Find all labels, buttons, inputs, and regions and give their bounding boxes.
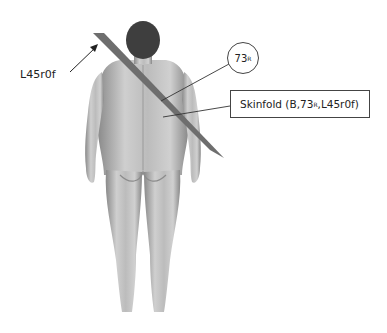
result-number: 73 [300, 98, 313, 110]
result-prefix: Skinfold (B, [240, 98, 300, 110]
site-number-circle: 73R [227, 42, 259, 74]
site-subscript: R [247, 55, 251, 62]
head-hair [126, 21, 160, 59]
site-number: 73 [235, 53, 248, 64]
human-figure-illustration [0, 0, 387, 333]
result-suffix: ,L45r0f) [318, 98, 359, 110]
direction-arrow-line [70, 47, 96, 72]
arrow-head-icon [90, 44, 98, 52]
site-label: L45r0f [20, 68, 56, 81]
result-box: Skinfold (B,73R,L45r0f) [230, 90, 370, 118]
diagram-stage: L45r0f 73R Skinfold (B,73R,L45r0f) [0, 0, 387, 333]
